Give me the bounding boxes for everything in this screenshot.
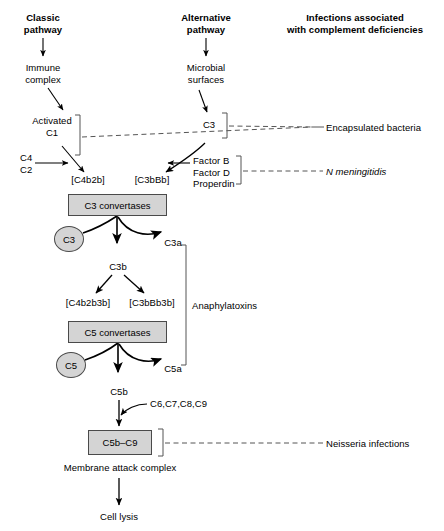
header-classic-pathway: Classic pathway bbox=[24, 12, 62, 35]
outcome-neisseria-infections: Neisseria infections bbox=[326, 438, 409, 450]
bracket-classic bbox=[75, 115, 80, 155]
node-c3-substrate: C3 bbox=[54, 226, 84, 252]
node-c4b2b: [C4b2b] bbox=[71, 174, 105, 186]
node-c6-c7-c8-c9: C6,C7,C8,C9 bbox=[150, 398, 207, 410]
box-c5b-c9: C5b–C9 bbox=[88, 430, 152, 455]
node-c4-c2: C4 C2 bbox=[20, 152, 32, 175]
bracket-c3-top bbox=[222, 113, 227, 138]
node-factors: Factor B Factor D Properdin bbox=[193, 155, 235, 190]
arrow-c3b-to-c3bbb3b bbox=[124, 275, 144, 293]
box-c3-convertases: C3 convertases bbox=[68, 194, 167, 216]
node-c3-substrate-label: C3 bbox=[63, 234, 75, 245]
node-c3b: C3b bbox=[109, 261, 127, 273]
complement-pathway-diagram: Classic pathway Alternative pathway Infe… bbox=[0, 0, 444, 531]
node-c5-substrate: C5 bbox=[56, 352, 86, 378]
label-membrane-attack-complex: Membrane attack complex bbox=[64, 462, 177, 474]
bracket-anaphylatoxins bbox=[181, 245, 186, 365]
arrow-convertase-to-c5a bbox=[119, 344, 161, 361]
node-c5-substrate-label: C5 bbox=[65, 360, 77, 371]
arrow-c5-substrate-in bbox=[85, 343, 118, 360]
node-c3bbb: [C3bBb] bbox=[135, 174, 170, 186]
node-c3-top: C3 bbox=[203, 119, 215, 131]
outcome-n-meningitidis: N meningitidis bbox=[326, 166, 386, 178]
arrow-c3b-to-c4b2b3b bbox=[96, 275, 112, 293]
dashed-c3-to-encapsulated bbox=[229, 126, 312, 127]
node-cell-lysis: Cell lysis bbox=[100, 511, 138, 523]
node-c5b: C5b bbox=[110, 386, 128, 398]
outcome-encapsulated-bacteria: Encapsulated bacteria bbox=[326, 122, 421, 134]
arrow-c1-to-c4b2b bbox=[62, 146, 84, 172]
header-alternative-pathway: Alternative pathway bbox=[181, 12, 231, 35]
node-c3a: C3a bbox=[164, 237, 182, 249]
arrow-microbial-to-c3 bbox=[199, 90, 207, 112]
box-c5-convertases-label: C5 convertases bbox=[84, 327, 150, 338]
arrow-convertase-to-c3a bbox=[118, 217, 161, 234]
box-c5-convertases: C5 convertases bbox=[68, 321, 167, 343]
node-immune-complex: Immune complex bbox=[25, 62, 61, 85]
node-activated-c1: Activated C1 bbox=[32, 115, 72, 138]
node-microbial-surfaces: Microbial surfaces bbox=[187, 62, 225, 85]
label-anaphylatoxins: Anaphylatoxins bbox=[192, 300, 257, 312]
node-c4b2b3b: [C4b2b3b] bbox=[66, 297, 110, 309]
arrow-c6789-in bbox=[121, 404, 147, 415]
dashed-classic-to-encapsulated bbox=[82, 127, 312, 137]
box-c5b-c9-label: C5b–C9 bbox=[103, 437, 138, 448]
bracket-mac bbox=[158, 429, 163, 456]
node-c3bbb3b: [C3bBb3b] bbox=[129, 297, 174, 309]
header-infections-column: Infections associated with complement de… bbox=[287, 12, 423, 35]
node-c5a: C5a bbox=[164, 363, 182, 375]
bracket-factors bbox=[236, 156, 241, 184]
arrow-immune-to-c1 bbox=[48, 88, 63, 110]
box-c3-convertases-label: C3 convertases bbox=[84, 200, 150, 211]
arrow-c3-substrate-in bbox=[83, 216, 117, 233]
